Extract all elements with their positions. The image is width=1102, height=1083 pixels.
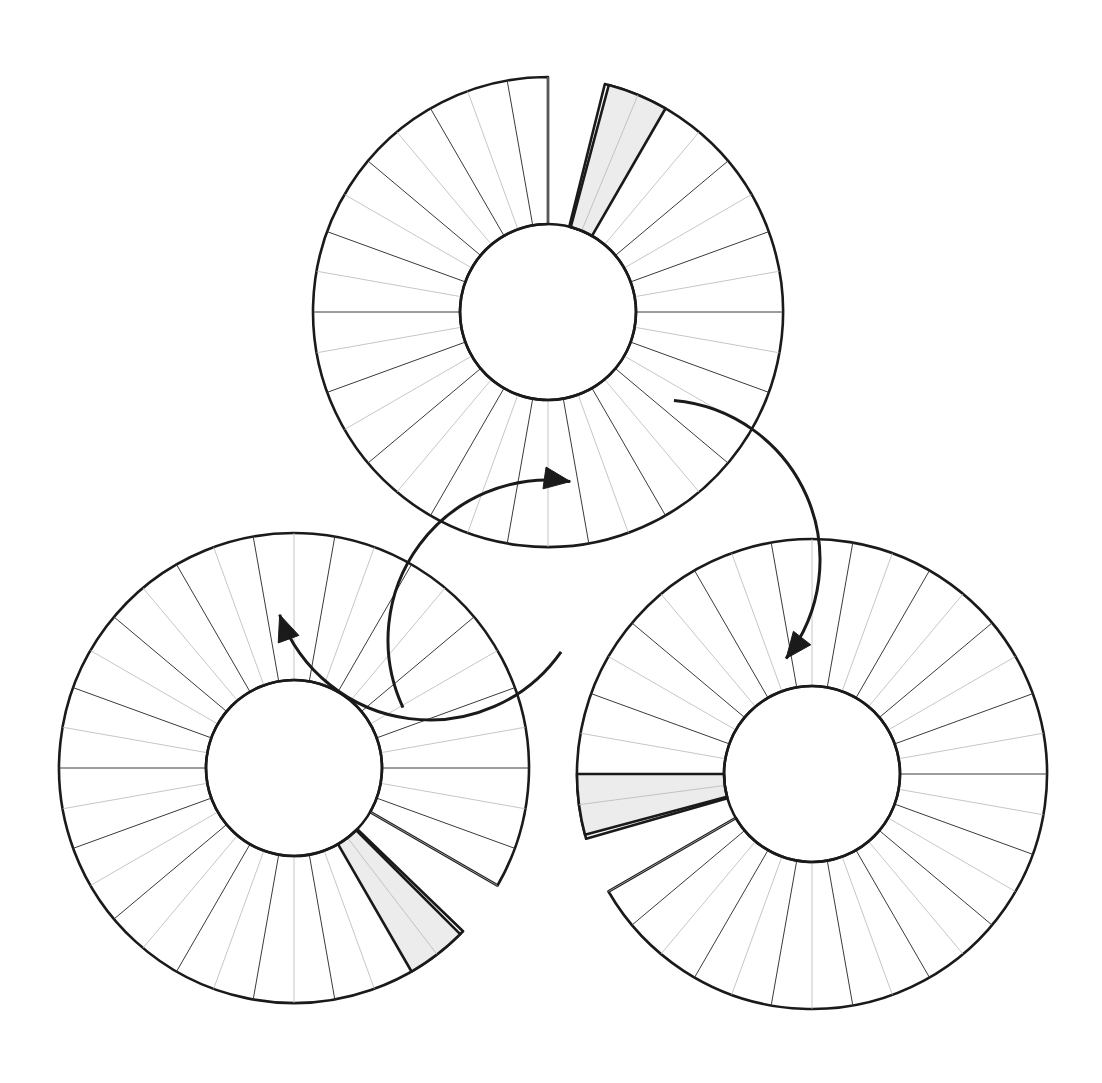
diagram-canvas: Three-wheel rotational transfer diagram … (0, 0, 1102, 1083)
three-wheel-diagram: Three-wheel rotational transfer diagram … (0, 0, 1102, 1083)
